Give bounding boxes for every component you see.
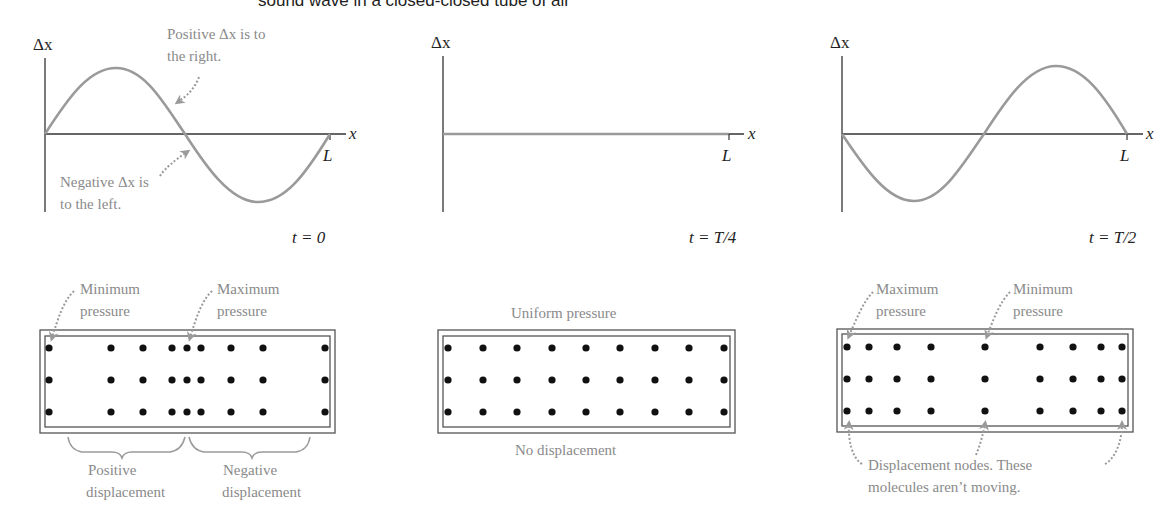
annotation-negative: Negative Δx is	[60, 174, 149, 190]
label-maximum-pressure-line2: pressure	[217, 303, 267, 319]
molecule-dot	[45, 408, 52, 415]
molecule-dot	[197, 376, 204, 383]
molecule-dot	[582, 408, 589, 415]
graph-tT2: Δx x L t = T/2	[830, 33, 1154, 247]
molecule-dot	[616, 344, 623, 351]
annotation-positive: Positive Δx is to	[167, 26, 265, 42]
molecule-dot	[720, 344, 727, 351]
molecule-dot	[444, 376, 451, 383]
label-minimum-pressure-line2: pressure	[80, 303, 130, 319]
time-label: t = T/2	[1089, 228, 1137, 247]
l-tick-label: L	[1119, 146, 1129, 165]
brace-negative	[189, 437, 310, 458]
molecule-dot	[865, 407, 872, 414]
molecule-dot	[843, 407, 850, 414]
label-displacement-nodes-line2: molecules aren’t moving.	[868, 479, 1021, 495]
molecule-dot	[513, 408, 520, 415]
label-no-displacement: No displacement	[515, 442, 617, 458]
label-positive-displacement-line2: displacement	[86, 484, 166, 500]
molecule-dot	[843, 375, 850, 382]
molecule-dot	[107, 408, 114, 415]
molecule-dot	[865, 343, 872, 350]
label-negative-displacement: Negative	[223, 462, 277, 478]
x-axis-label: x	[348, 124, 357, 143]
molecule-dot	[227, 344, 234, 351]
molecule-dot	[259, 344, 266, 351]
molecule-dot	[651, 344, 658, 351]
molecule-dot	[168, 344, 175, 351]
molecule-dot	[843, 343, 850, 350]
annotation-negative-line2: to the left.	[60, 196, 121, 212]
annotation-positive-line2: the right.	[167, 48, 221, 64]
l-tick-label: L	[322, 146, 332, 165]
standing-wave-diagram: Δx x L t = 0 Positive Δx is to the right…	[0, 0, 1168, 519]
molecule-dot	[582, 376, 589, 383]
molecule-dot	[444, 344, 451, 351]
graph-tT4: Δx x L t = T/4	[431, 33, 756, 247]
molecule-dot	[1097, 407, 1104, 414]
molecule-dot	[548, 344, 555, 351]
molecule-dot	[107, 344, 114, 351]
arrow-node-center	[976, 424, 985, 455]
molecule-dot	[139, 344, 146, 351]
molecule-dot	[927, 343, 934, 350]
molecule-dot	[479, 408, 486, 415]
molecule-dot	[197, 344, 204, 351]
molecule-dot	[685, 376, 692, 383]
label-minimum-pressure-line2: pressure	[1013, 303, 1063, 319]
y-axis-label: Δx	[830, 33, 850, 52]
molecule-dot	[513, 344, 520, 351]
molecule-dot	[183, 408, 190, 415]
molecule-dot	[321, 344, 328, 351]
molecules	[444, 344, 727, 415]
arrow-minimum-pressure	[52, 291, 74, 338]
arrow-node-left	[849, 424, 862, 464]
l-tick-label: L	[721, 146, 731, 165]
x-axis-label: x	[1145, 124, 1154, 143]
molecule-dot	[227, 408, 234, 415]
molecule-dot	[1118, 375, 1125, 382]
molecule-dot	[651, 408, 658, 415]
molecule-dot	[720, 408, 727, 415]
molecule-dot	[720, 376, 727, 383]
arrow-node-right	[1105, 424, 1122, 464]
molecule-dot	[981, 407, 988, 414]
molecule-dot	[685, 344, 692, 351]
molecule-dot	[616, 408, 623, 415]
molecules	[843, 343, 1125, 414]
graph-t0: Δx x L t = 0 Positive Δx is to the right…	[33, 26, 357, 247]
molecule-dot	[1097, 375, 1104, 382]
label-minimum-pressure: Minimum	[80, 281, 140, 297]
molecule-dot	[981, 375, 988, 382]
time-label: t = T/4	[689, 228, 737, 247]
y-axis-label: Δx	[33, 35, 53, 54]
molecule-dot	[107, 376, 114, 383]
label-displacement-nodes: Displacement nodes. These	[868, 457, 1033, 473]
molecule-dot	[168, 376, 175, 383]
molecules	[45, 344, 328, 415]
label-maximum-pressure: Maximum	[217, 281, 280, 297]
molecule-dot	[479, 344, 486, 351]
molecule-dot	[197, 408, 204, 415]
brace-positive	[68, 437, 185, 458]
molecule-dot	[321, 376, 328, 383]
label-maximum-pressure-line2: pressure	[876, 303, 926, 319]
molecule-dot	[1036, 407, 1043, 414]
x-axis-label: x	[747, 124, 756, 143]
molecule-dot	[259, 408, 266, 415]
molecule-dot	[651, 376, 658, 383]
tube-tT4: Uniform pressure No displacement	[438, 305, 735, 458]
label-negative-displacement-line2: displacement	[222, 484, 302, 500]
molecule-dot	[1069, 343, 1076, 350]
molecule-dot	[927, 375, 934, 382]
arrow-maximum-pressure	[190, 291, 212, 338]
time-label: t = 0	[292, 228, 326, 247]
molecule-dot	[479, 376, 486, 383]
molecule-dot	[1118, 407, 1125, 414]
molecule-dot	[45, 344, 52, 351]
molecule-dot	[139, 376, 146, 383]
molecule-dot	[183, 344, 190, 351]
molecule-dot	[865, 375, 872, 382]
y-axis-label: Δx	[431, 33, 451, 52]
molecule-dot	[1118, 343, 1125, 350]
